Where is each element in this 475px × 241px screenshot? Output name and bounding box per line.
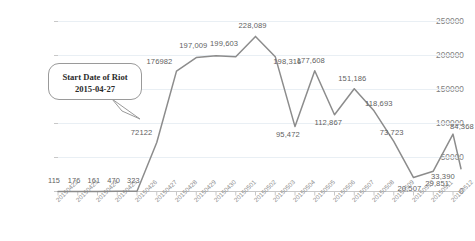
data-point-label: 115	[48, 177, 60, 184]
data-point-label: 95,472	[276, 131, 300, 139]
y-axis-tick-marks	[54, 22, 58, 192]
data-point-label: 84,368	[450, 123, 474, 131]
data-point-label: 112,867	[315, 119, 343, 127]
data-point-label: 33,390	[431, 173, 455, 181]
data-point-label: 199,603	[210, 40, 238, 48]
callout-tail	[110, 98, 150, 120]
annotation-line-2: 2015-04-27	[49, 83, 141, 95]
annotation-line-1: Start Date of Riot	[49, 71, 141, 83]
data-point-label: 197,009	[179, 42, 207, 50]
data-point-label: 228,089	[239, 22, 267, 30]
data-point-label: 176982	[147, 58, 173, 66]
data-point-label: 177,608	[297, 57, 325, 65]
data-point-label: 118,693	[365, 100, 393, 108]
data-point-label: 72122	[131, 129, 153, 137]
riot-start-annotation: Start Date of Riot 2015-04-27	[48, 63, 142, 100]
data-point-label: 73,723	[380, 129, 404, 137]
data-point-label: 151,186	[338, 75, 366, 83]
